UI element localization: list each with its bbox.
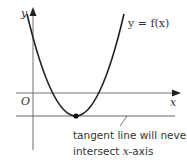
- y-axis-label: y: [20, 7, 28, 20]
- origin-label: O: [21, 95, 30, 108]
- annotation-line-2: intersect x-axis: [73, 145, 153, 157]
- x-axis-label: x: [170, 96, 177, 109]
- parabola-diagram: y x O y = f(x) tangent line will never i…: [0, 0, 187, 165]
- vertex-point: [73, 113, 78, 118]
- parabola-curve: [27, 14, 124, 116]
- annotation-line-2-suffix: -axis: [129, 145, 154, 157]
- curve-label-text: y = f(x): [127, 17, 169, 30]
- annotation-pointer: [120, 116, 127, 126]
- curve-label: y = f(x): [127, 17, 169, 30]
- y-axis-arrow-icon: [30, 7, 37, 16]
- annotation-line-2-prefix: intersect: [73, 145, 123, 157]
- annotation-line-1: tangent line will never: [73, 129, 187, 141]
